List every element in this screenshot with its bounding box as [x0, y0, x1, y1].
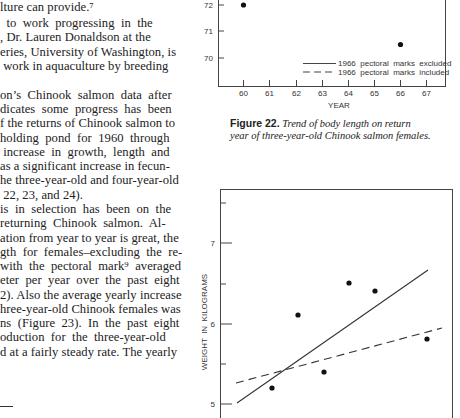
figure-22-caption: Figure 22. Trend of body length on retur…	[230, 117, 460, 142]
ytick-label: 72	[204, 1, 213, 10]
xtick-label: 67	[422, 89, 431, 98]
ytick-label: 71	[204, 27, 213, 36]
trend-line-dashed	[236, 328, 442, 383]
xtick-label: 60	[239, 89, 248, 98]
fig22-xlabel: YEAR	[328, 101, 350, 110]
xtick-label: 66	[396, 89, 405, 98]
trend-line-solid	[237, 270, 428, 403]
data-point	[346, 280, 351, 285]
fig22-ytick-labels: 72 71 70	[204, 1, 213, 63]
fig22-legend: 1966 pectoral marks excluded 1966 pector…	[303, 59, 451, 77]
fig23-ytick-labels: 7 6 5	[211, 239, 216, 409]
xtick-label: 63	[318, 89, 327, 98]
data-point	[321, 369, 326, 374]
data-point	[424, 336, 429, 341]
legend-dashed-label: 1966 pectoral marks included	[338, 68, 449, 77]
data-point	[372, 288, 377, 293]
legend-solid-label: 1966 pectoral marks excluded	[338, 59, 451, 68]
data-point	[269, 385, 274, 390]
fig23-axes	[220, 189, 453, 418]
caption-text-line-2: year of three-year-old Chinook salmon fe…	[230, 130, 460, 142]
caption-label: Figure 22.	[230, 117, 280, 129]
fig23-data-points	[269, 280, 429, 390]
fig22-xtick-labels: 60 61 62 63 64 65 66 67	[239, 89, 431, 98]
xtick-label: 61	[265, 89, 274, 98]
xtick-label: 65	[370, 89, 379, 98]
ytick-label: 5	[211, 400, 216, 409]
xtick-label: 62	[292, 89, 301, 98]
xtick-label: 64	[344, 89, 353, 98]
ytick-label: 6	[211, 320, 216, 329]
fig23-ylabel: WEIGHT IN KILOGRAMS	[200, 274, 209, 370]
figure-22-chart: 72 71 70 60 61 62 63 64 65 66 67 YEAR 19…	[0, 0, 460, 418]
data-point	[241, 2, 246, 7]
data-point	[398, 42, 403, 47]
caption-text: Trend of body length on return	[282, 118, 410, 129]
ytick-label: 7	[211, 239, 216, 248]
data-point	[295, 312, 300, 317]
ytick-label: 70	[204, 54, 213, 63]
